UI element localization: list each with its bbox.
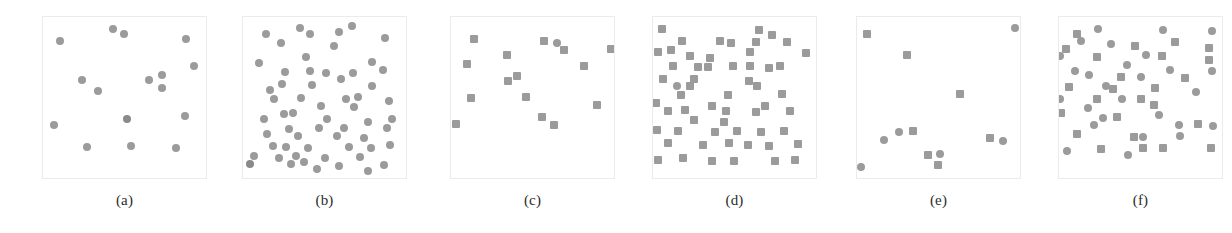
data-point-square (802, 49, 810, 57)
data-point-square (669, 62, 677, 70)
data-point-square (1093, 53, 1101, 61)
data-point-circle (379, 66, 387, 74)
data-point-square (467, 94, 475, 102)
data-point-circle (345, 143, 353, 151)
data-point-square (753, 82, 761, 90)
data-point-square (746, 48, 754, 56)
data-point-square (730, 157, 738, 165)
data-point-circle (335, 28, 343, 36)
data-point-square (1131, 42, 1139, 50)
data-point-square (1205, 56, 1213, 64)
data-point-square (1194, 120, 1202, 128)
data-point-circle (260, 115, 268, 123)
data-point-circle (333, 132, 341, 140)
data-point-circle (120, 30, 128, 38)
data-point-square (1137, 95, 1145, 103)
data-point-square (1151, 84, 1159, 92)
plot-area (857, 17, 1020, 178)
data-point-circle (287, 160, 295, 168)
data-point-square (677, 91, 685, 99)
data-point-square (653, 126, 661, 134)
data-point-square (1073, 30, 1081, 38)
data-point-circle (1175, 121, 1183, 129)
data-point-circle (292, 152, 300, 160)
data-point-circle (880, 136, 888, 144)
data-point-circle (181, 112, 189, 120)
data-point-circle (302, 53, 310, 61)
data-point-square (745, 77, 753, 85)
data-point-square (538, 113, 546, 121)
data-point-circle (269, 142, 277, 150)
data-point-square (744, 141, 752, 149)
data-point-circle (1118, 95, 1126, 103)
data-point-circle (289, 109, 297, 117)
scatter-panel-b (242, 16, 407, 179)
data-point-square (1097, 145, 1105, 153)
data-point-circle (1124, 151, 1132, 159)
data-point-square (674, 127, 682, 135)
data-point-circle (172, 144, 180, 152)
data-point-square (679, 154, 687, 162)
data-point-circle (313, 165, 321, 173)
data-point-square (909, 127, 917, 135)
data-point-circle (50, 121, 58, 129)
data-point-square (686, 52, 694, 60)
data-point-circle (1077, 37, 1085, 45)
data-point-circle (1176, 132, 1184, 140)
data-point-circle (83, 143, 91, 151)
data-point-square (667, 46, 675, 54)
data-point-square (1065, 83, 1073, 91)
data-point-circle (1142, 51, 1150, 59)
data-point-square (452, 120, 460, 128)
data-point-circle (1208, 27, 1216, 35)
data-point-square (729, 62, 737, 70)
data-point-square (690, 75, 698, 83)
data-point-circle (1107, 40, 1115, 48)
data-point-square (503, 51, 511, 59)
data-point-square (1181, 74, 1189, 82)
data-point-circle (340, 124, 348, 132)
data-point-square (794, 140, 802, 148)
data-point-square (1062, 45, 1070, 53)
data-point-square (664, 139, 672, 147)
data-point-circle (296, 24, 304, 32)
data-point-circle (277, 39, 285, 47)
data-point-square (699, 141, 707, 149)
scatter-panel-a (42, 16, 207, 179)
data-point-square (470, 35, 478, 43)
data-point-circle (123, 115, 131, 123)
data-point-square (711, 128, 719, 136)
data-point-circle (321, 154, 329, 162)
data-point-square (727, 39, 735, 47)
panel-label-a: (a) (42, 193, 207, 208)
data-point-square (1117, 73, 1125, 81)
data-point-square (580, 62, 588, 70)
panel-label-e: (e) (856, 193, 1021, 208)
panel-label-f: (f) (1058, 193, 1223, 208)
data-point-circle (335, 162, 343, 170)
scatter-panel-d (652, 16, 817, 179)
data-point-circle (895, 128, 903, 136)
data-point-circle (282, 143, 290, 151)
plot-area (451, 17, 614, 178)
data-point-circle (294, 132, 302, 140)
data-point-circle (1099, 114, 1107, 122)
scatter-panel-c (450, 16, 615, 179)
data-point-circle (182, 35, 190, 43)
data-point-circle (280, 110, 288, 118)
data-point-circle (300, 158, 308, 166)
data-point-square (776, 62, 784, 70)
data-point-square (771, 157, 779, 165)
plot-area (243, 17, 406, 178)
data-point-circle (386, 141, 394, 149)
panel-label-d: (d) (652, 193, 817, 208)
data-point-circle (1011, 24, 1019, 32)
data-point-square (607, 45, 614, 53)
data-point-square (765, 142, 773, 150)
data-point-square (1150, 101, 1158, 109)
data-point-circle (337, 75, 345, 83)
data-point-square (708, 157, 716, 165)
data-point-circle (1139, 133, 1147, 141)
data-point-circle (297, 94, 305, 102)
data-point-circle (1063, 147, 1071, 155)
